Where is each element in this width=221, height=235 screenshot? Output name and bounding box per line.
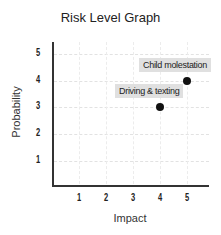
y-tick-2: 2 <box>34 127 43 138</box>
gridline-y3 <box>54 107 209 108</box>
data-point-driving-texting[interactable] <box>156 103 164 111</box>
x-tick-5: 5 <box>183 192 192 203</box>
point-label-driving-texting: Driving & texting <box>115 84 183 98</box>
gridline-x1 <box>79 42 80 184</box>
y-axis-label: Probability <box>10 82 22 142</box>
y-tick-1: 1 <box>34 154 43 165</box>
x-tick-3: 3 <box>129 192 138 203</box>
y-axis <box>52 42 54 186</box>
gridline-x2 <box>106 42 107 184</box>
gridline-y1 <box>54 161 209 162</box>
gridline-y5 <box>54 54 209 55</box>
y-tick-5: 5 <box>34 47 43 58</box>
gridline-y2 <box>54 134 209 135</box>
gridline-x3 <box>133 42 134 184</box>
x-axis <box>52 185 209 187</box>
x-tick-2: 2 <box>102 192 111 203</box>
x-tick-1: 1 <box>75 192 84 203</box>
chart-title: Risk Level Graph <box>0 10 221 25</box>
y-tick-4: 4 <box>34 74 43 85</box>
x-tick-4: 4 <box>156 192 165 203</box>
x-axis-label: Impact <box>100 212 160 224</box>
point-label-child-molestation: Child molestation <box>139 58 211 72</box>
y-tick-3: 3 <box>34 100 43 111</box>
data-point-child-molestation[interactable] <box>183 77 191 85</box>
